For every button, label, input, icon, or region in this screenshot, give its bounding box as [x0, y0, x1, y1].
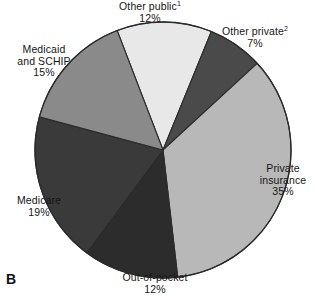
- slice-label-medicaid-schip-line2: and SCHIP: [17, 55, 70, 67]
- slice-value-other-public: 12%: [88, 13, 212, 25]
- slice-value-other-private: 7%: [196, 38, 314, 50]
- footnote-marker-2: 2: [284, 25, 288, 32]
- slice-label-medicaid-schip-line1: Medicaid: [23, 43, 66, 55]
- slice-label-out-of-pocket-text: Out-of-pocket: [123, 271, 188, 283]
- slice-label-private-insurance-line1: Private: [266, 162, 299, 174]
- figure-panel-b: Other public1 12% Other private2 7% Priv…: [0, 0, 316, 298]
- slice-label-other-public-text: Other public: [119, 0, 177, 12]
- slice-value-medicaid-schip: 15%: [2, 67, 86, 79]
- slice-value-out-of-pocket: 12%: [92, 284, 218, 296]
- slice-label-medicaid-schip: Medicaid and SCHIP 15%: [2, 44, 86, 79]
- panel-letter: B: [6, 271, 16, 287]
- slice-label-medicare-text: Medicare: [17, 194, 61, 206]
- slice-value-private-insurance: 35%: [252, 186, 314, 198]
- slice-value-medicare: 19%: [2, 207, 76, 219]
- slice-label-other-public: Other public1 12%: [88, 1, 212, 24]
- slice-label-other-private-text: Other private: [222, 25, 284, 37]
- slice-label-out-of-pocket: Out-of-pocket 12%: [92, 272, 218, 295]
- slice-label-private-insurance: Private insurance 35%: [252, 163, 314, 198]
- footnote-marker-1: 1: [177, 0, 181, 7]
- slice-label-medicare: Medicare 19%: [2, 195, 76, 218]
- slice-label-other-private: Other private2 7%: [196, 26, 314, 49]
- slice-label-private-insurance-line2: insurance: [260, 174, 306, 186]
